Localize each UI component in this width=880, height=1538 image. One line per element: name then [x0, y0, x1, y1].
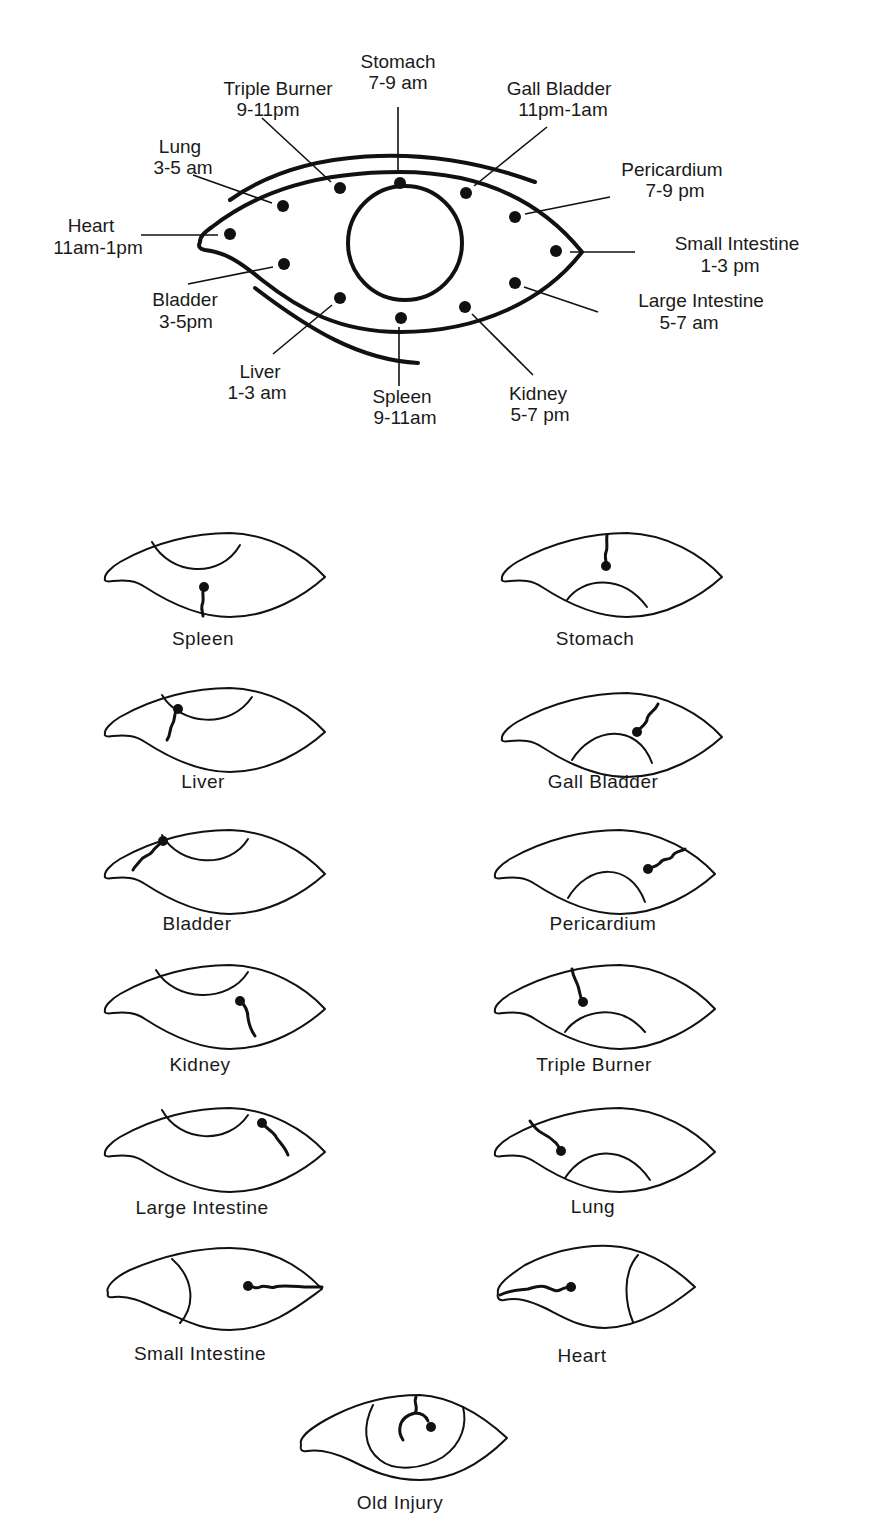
label-bladder: Bladder	[152, 289, 218, 310]
point-stomach	[394, 177, 406, 189]
leader-kidney	[472, 314, 533, 375]
point-pericardium	[509, 211, 521, 223]
lesion-dot	[257, 1118, 267, 1128]
leader-triple-burner	[262, 118, 331, 182]
lesion-line	[572, 969, 583, 1002]
example-small-intestine	[107, 1248, 322, 1330]
label-lung: Lung	[159, 136, 201, 157]
lesion-line	[530, 1121, 560, 1150]
caption-large-intestine: Large Intestine	[135, 1197, 268, 1218]
lesion-line	[648, 849, 685, 869]
example-kidney	[105, 965, 325, 1049]
example-heart	[498, 1246, 695, 1328]
label-liver: Liver	[239, 361, 281, 382]
label-kidney: Kidney	[509, 383, 568, 404]
point-heart	[224, 228, 236, 240]
label-gall-bladder: Gall Bladder	[507, 78, 612, 99]
time-liver: 1-3 am	[227, 382, 286, 403]
lesion-dot	[601, 561, 611, 571]
example-bladder	[105, 830, 325, 914]
example-pericardium	[495, 830, 715, 914]
lesion-dot	[243, 1281, 253, 1291]
iris-arc	[162, 1110, 248, 1136]
example-triple-burner	[495, 965, 715, 1049]
caption-gall-bladder: Gall Bladder	[548, 771, 659, 792]
label-triple-burner: Triple Burner	[223, 78, 333, 99]
caption-spleen: Spleen	[172, 628, 234, 649]
caption-stomach: Stomach	[556, 628, 634, 649]
time-kidney: 5-7 pm	[510, 404, 569, 425]
leader-large-intestine	[524, 287, 598, 312]
caption-heart: Heart	[558, 1345, 607, 1366]
eye-outline	[107, 1248, 322, 1330]
point-liver	[334, 292, 346, 304]
lesion-dot	[578, 997, 588, 1007]
caption-old-injury: Old Injury	[357, 1492, 443, 1513]
lesion-dot	[235, 996, 245, 1006]
label-pericardium: Pericardium	[621, 159, 722, 180]
iris-arc	[172, 1259, 190, 1323]
caption-small-intestine: Small Intestine	[134, 1343, 266, 1364]
iris-arc	[568, 872, 645, 902]
point-spleen	[395, 312, 407, 324]
point-kidney	[459, 301, 471, 313]
point-triple-burner	[334, 182, 346, 194]
leader-liver	[273, 305, 332, 354]
eye-outline	[498, 1246, 695, 1328]
example-spleen	[105, 533, 325, 617]
lesion-dot	[556, 1146, 566, 1156]
lesion-line	[637, 704, 658, 732]
time-small-intestine: 1-3 pm	[700, 255, 759, 276]
eye-outline	[199, 172, 582, 332]
iris-arc	[162, 835, 248, 860]
time-large-intestine: 5-7 am	[659, 312, 718, 333]
lesion-dot	[632, 727, 642, 737]
caption-liver: Liver	[181, 771, 225, 792]
point-bladder	[278, 258, 290, 270]
label-stomach: Stomach	[361, 51, 436, 72]
time-bladder: 3-5pm	[159, 311, 213, 332]
caption-kidney: Kidney	[169, 1054, 230, 1075]
time-lung: 3-5 am	[153, 157, 212, 178]
time-gall-bladder: 11pm-1am	[518, 99, 607, 120]
example-old-injury	[301, 1395, 507, 1480]
example-lung	[495, 1108, 715, 1192]
iris-circle	[348, 186, 462, 300]
point-gall-bladder	[460, 187, 472, 199]
meridian-eye-diagram: Stomach 7-9 am Triple Burner 9-11pm Gall…	[0, 0, 880, 1538]
lesion-line	[240, 1001, 255, 1036]
lesion-line	[262, 1123, 288, 1155]
iris-arc	[152, 542, 240, 569]
iris-arc	[565, 1153, 650, 1180]
label-small-intestine: Small Intestine	[675, 233, 800, 254]
lesion-dot	[426, 1422, 436, 1432]
lesion-dot	[158, 836, 168, 846]
lesion-dot	[199, 582, 209, 592]
lesion-dot	[566, 1282, 576, 1292]
lesion-line	[247, 1286, 322, 1288]
time-heart: 11am-1pm	[53, 237, 142, 258]
caption-lung: Lung	[571, 1196, 615, 1217]
example-liver	[105, 688, 325, 772]
lesion-line	[167, 709, 177, 740]
lesion-dot	[643, 864, 653, 874]
iris-arc	[572, 734, 652, 763]
lesion-line	[500, 1286, 574, 1295]
point-small-intestine	[550, 245, 562, 257]
main-eye-chart: Stomach 7-9 am Triple Burner 9-11pm Gall…	[53, 51, 799, 428]
lesion-line	[400, 1397, 428, 1440]
iris-arc	[567, 582, 647, 607]
point-large-intestine	[509, 277, 521, 289]
iris-arc	[565, 1012, 645, 1032]
time-pericardium: 7-9 pm	[645, 180, 704, 201]
example-large-intestine	[105, 1108, 325, 1192]
point-lung	[277, 200, 289, 212]
label-spleen: Spleen	[372, 386, 431, 407]
time-stomach: 7-9 am	[368, 72, 427, 93]
caption-pericardium: Pericardium	[550, 913, 657, 934]
label-heart: Heart	[68, 215, 115, 236]
label-large-intestine: Large Intestine	[638, 290, 764, 311]
time-triple-burner: 9-11pm	[236, 99, 299, 120]
leader-gall-bladder	[474, 127, 547, 186]
example-stomach	[502, 533, 722, 617]
